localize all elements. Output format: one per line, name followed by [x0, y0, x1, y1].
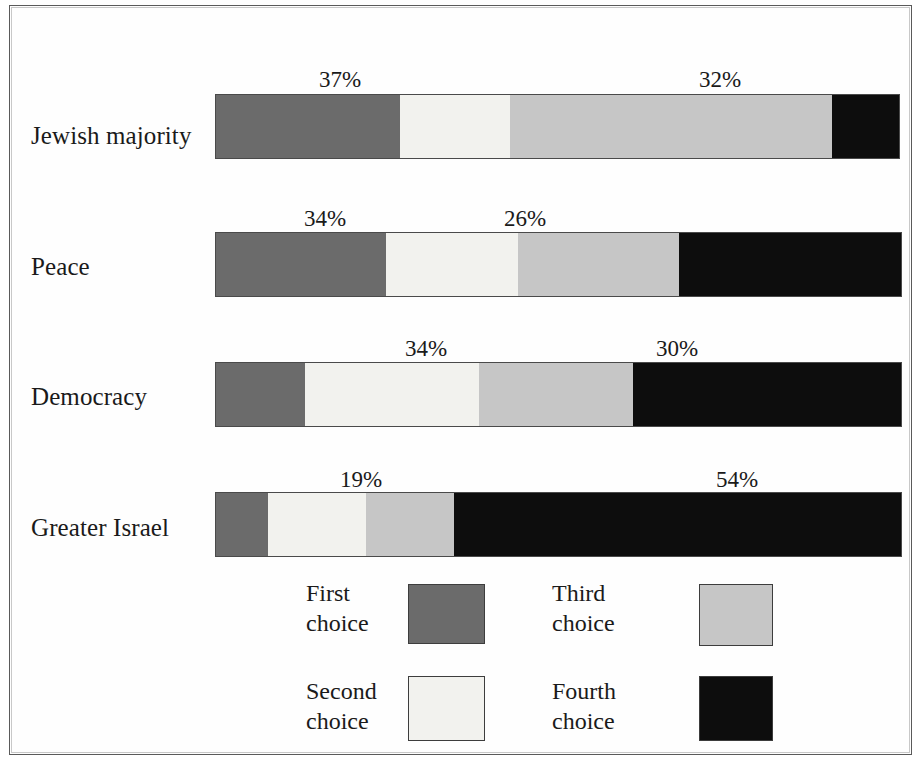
legend-label-third-choice-line2: choice [552, 610, 615, 637]
value-label-peace-first: 34% [304, 207, 346, 230]
legend-label-first-choice-line1: First [306, 580, 350, 607]
bar-segment-third-choice [518, 233, 679, 296]
value-label-greater-israel-second: 19% [340, 468, 382, 491]
value-label-democracy-third: 30% [656, 337, 698, 360]
stacked-bar-peace [215, 232, 902, 297]
bar-segment-fourth-choice [454, 493, 901, 556]
second-choice-swatch [408, 676, 485, 741]
bar-segment-fourth-choice [832, 95, 899, 158]
legend-label-fourth-choice-line1: Fourth [552, 678, 616, 705]
stacked-bar-democracy [215, 362, 902, 427]
stacked-bar-jewish-majority [215, 94, 900, 159]
bar-segment-first-choice [216, 233, 386, 296]
legend-label-second-choice-line2: choice [306, 708, 369, 735]
bar-segment-third-choice [479, 363, 633, 426]
stacked-bar-greater-israel [215, 492, 902, 557]
category-label-jewish-majority: Jewish majority [31, 123, 192, 148]
chart-plot-area: Jewish majority 37% 32% Peace 34% 26% [10, 6, 911, 754]
value-label-jewish-majority-first: 37% [319, 68, 361, 91]
value-label-peace-second: 26% [504, 207, 546, 230]
bar-segment-fourth-choice [633, 363, 901, 426]
bar-segment-first-choice [216, 363, 305, 426]
value-label-jewish-majority-third: 32% [699, 68, 741, 91]
bar-segment-first-choice [216, 493, 268, 556]
value-label-greater-israel-fourth: 54% [716, 468, 758, 491]
legend-label-fourth-choice-line2: choice [552, 708, 615, 735]
third-choice-swatch [699, 584, 773, 646]
category-label-greater-israel: Greater Israel [31, 515, 169, 540]
legend-label-first-choice-line2: choice [306, 610, 369, 637]
legend-label-third-choice-line1: Third [552, 580, 605, 607]
category-label-democracy: Democracy [31, 384, 147, 409]
legend-label-second-choice-line1: Second [306, 678, 377, 705]
fourth-choice-swatch [699, 676, 773, 741]
category-label-peace: Peace [31, 254, 90, 279]
chart-legend: KEY: First choice Second choice Third ch… [10, 568, 911, 756]
bar-segment-third-choice [510, 95, 832, 158]
bar-segment-second-choice [386, 233, 518, 296]
bar-segment-fourth-choice [679, 233, 901, 296]
bar-segment-second-choice [305, 363, 479, 426]
first-choice-swatch [408, 584, 485, 644]
bar-segment-second-choice [400, 95, 509, 158]
bar-segment-second-choice [268, 493, 366, 556]
value-label-democracy-second: 34% [405, 337, 447, 360]
bar-segment-third-choice [366, 493, 454, 556]
bar-segment-first-choice [216, 95, 400, 158]
chart-figure-frame: Jewish majority 37% 32% Peace 34% 26% [9, 5, 912, 755]
